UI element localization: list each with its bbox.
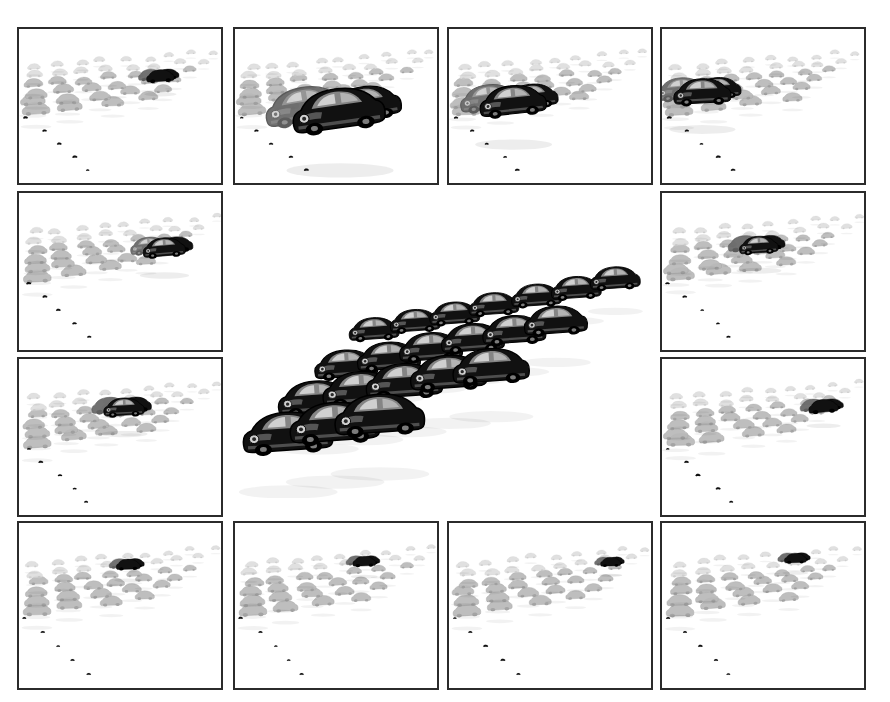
render-scene bbox=[19, 193, 221, 350]
figure-root bbox=[0, 0, 890, 702]
viewpoint-render-bottom-third[interactable] bbox=[447, 521, 653, 690]
render-scene bbox=[449, 523, 651, 688]
render-scene bbox=[662, 29, 864, 183]
viewpoint-render-mid-right-upper[interactable] bbox=[660, 191, 866, 352]
render-scene bbox=[662, 359, 864, 515]
render-scene bbox=[235, 523, 437, 688]
center-scene bbox=[228, 258, 660, 498]
render-scene bbox=[235, 29, 437, 183]
viewpoint-render-bottom-second[interactable] bbox=[233, 521, 439, 690]
viewpoint-render-top-third[interactable] bbox=[447, 27, 653, 185]
render-scene bbox=[19, 359, 221, 515]
render-scene bbox=[19, 29, 221, 183]
viewpoint-render-bottom-left[interactable] bbox=[17, 521, 223, 690]
viewpoint-render-top-second[interactable] bbox=[233, 27, 439, 185]
render-scene bbox=[449, 29, 651, 183]
viewpoint-render-mid-left-lower[interactable] bbox=[17, 357, 223, 517]
viewpoint-render-bottom-right[interactable] bbox=[660, 521, 866, 690]
render-scene bbox=[662, 193, 864, 350]
viewpoint-render-mid-left-upper[interactable] bbox=[17, 191, 223, 352]
render-scene bbox=[662, 523, 864, 688]
viewpoint-render-top-left[interactable] bbox=[17, 27, 223, 185]
center-overview-render bbox=[228, 258, 660, 498]
viewpoint-render-top-right[interactable] bbox=[660, 27, 866, 185]
render-scene bbox=[19, 523, 221, 688]
viewpoint-render-mid-right-lower[interactable] bbox=[660, 357, 866, 517]
